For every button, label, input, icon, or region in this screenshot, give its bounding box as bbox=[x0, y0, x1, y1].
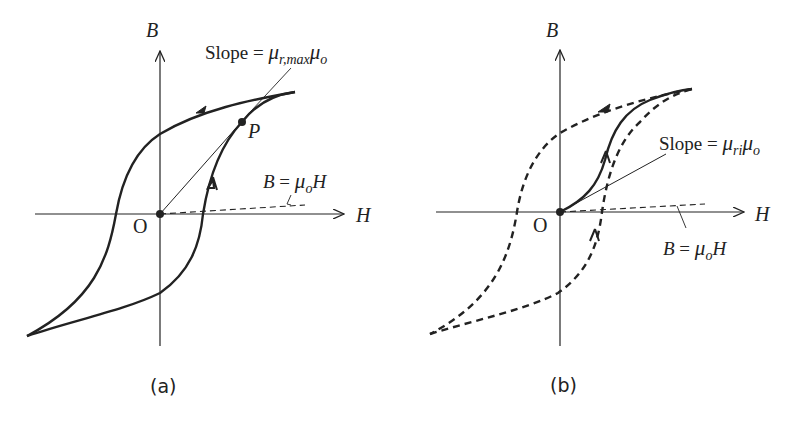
origin-point bbox=[156, 210, 164, 218]
point-p bbox=[238, 118, 246, 126]
point-p-label: P bbox=[247, 120, 260, 142]
slope-leader-line bbox=[252, 68, 291, 110]
panel-a-caption: (a) bbox=[150, 375, 176, 397]
b-axis-label: B bbox=[146, 19, 158, 41]
panel-b: B H O Slope = μriμo B = μoH (b) bbox=[430, 19, 771, 396]
hysteresis-figure: B H O P Slope = μr,maxμo B = μoH (a) bbox=[0, 0, 811, 422]
b-axis-label: B bbox=[546, 19, 558, 41]
panel-b-caption: (b) bbox=[550, 374, 577, 396]
origin-label: O bbox=[533, 214, 547, 236]
vacuum-line bbox=[560, 204, 705, 212]
slope-annotation: Slope = μriμo bbox=[659, 131, 760, 158]
vacuum-leader-line bbox=[287, 195, 291, 205]
vacuum-equation: B = μoH bbox=[663, 236, 727, 263]
slope-annotation: Slope = μr,maxμo bbox=[205, 40, 327, 67]
origin-point bbox=[556, 208, 564, 216]
arrow-upper-branch-icon bbox=[196, 106, 206, 113]
vacuum-line bbox=[160, 205, 305, 214]
panel-a: B H O P Slope = μr,maxμo B = μoH (a) bbox=[27, 19, 372, 397]
h-axis-label: H bbox=[754, 203, 771, 225]
h-axis-label: H bbox=[355, 204, 372, 226]
vacuum-leader-line bbox=[677, 206, 686, 228]
arrow-upper-branch-icon bbox=[598, 104, 610, 112]
vacuum-equation: B = μoH bbox=[263, 169, 327, 196]
origin-label: O bbox=[133, 215, 147, 237]
